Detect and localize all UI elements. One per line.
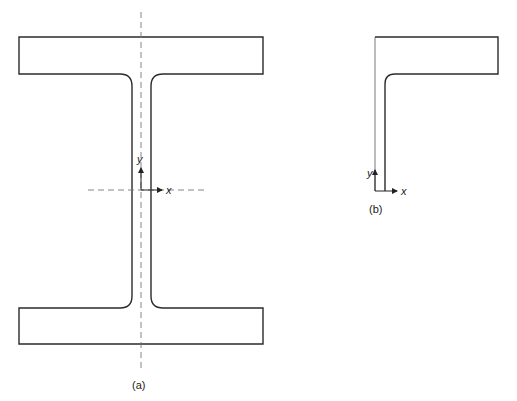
x-axis-label-b: x [400,185,407,197]
y-axis-label: y [136,153,144,165]
diagram-canvas: y x (a) y x (b) [0,0,517,401]
x-axis-label: x [165,184,172,196]
figure-a-ibeam: y x (a) [19,12,263,391]
figure-b-angle: y x (b) [366,37,498,215]
caption-a: (a) [132,379,145,391]
angle-outline [375,37,498,191]
y-axis-label-b: y [366,167,374,179]
caption-b: (b) [369,203,382,215]
